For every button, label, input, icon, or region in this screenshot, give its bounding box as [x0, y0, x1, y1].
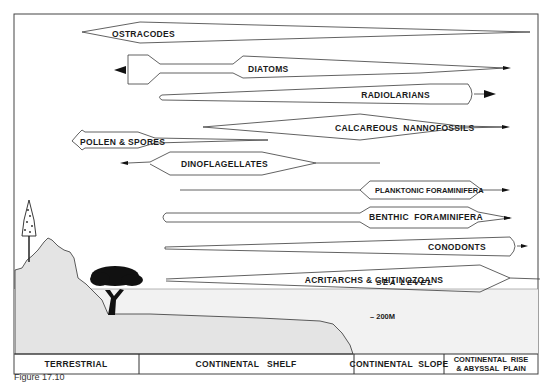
radiolarians-arrowhead: [484, 90, 496, 98]
depth-200m-label: – 200M: [370, 312, 395, 321]
label-benthic-foraminifera: BENTHIC FORAMINIFERA: [369, 212, 483, 222]
label-diatoms: DIATOMS: [248, 64, 289, 74]
zone-bar: TERRESTRIAL CONTINENTAL SHELF CONTINENTA…: [14, 354, 538, 374]
label-radiolarians: RADIOLARIANS: [361, 90, 430, 100]
range-diatoms: [128, 55, 505, 84]
label-ostracodes: OSTRACODES: [112, 29, 175, 39]
zone-continental-shelf: CONTINENTAL SHELF: [196, 359, 297, 369]
label-pollen-spores: POLLEN & SPORES: [80, 137, 165, 147]
zone-continental-rise: CONTINENTAL RISE: [454, 355, 529, 364]
zone-terrestrial: TERRESTRIAL: [45, 359, 108, 369]
label-conodonts: CONODONTS: [428, 242, 486, 252]
diatoms-left-arrowhead: [114, 66, 126, 74]
microfossil-distribution-diagram: TERRESTRIAL CONTINENTAL SHELF CONTINENTA…: [0, 0, 555, 385]
label-dinoflagellates: DINOFLAGELLATES: [181, 159, 268, 169]
label-acritarchs-chitinozoans: ACRITARCHS & CHITINOZOANS: [305, 275, 444, 285]
label-calcareous-nannofossils: CALCAREOUS NANNOFOSSILS: [335, 123, 474, 133]
label-planktonic-foraminifera: PLANKTONIC FORAMINIFERA: [375, 186, 484, 195]
zone-continental-slope: CONTINENTAL SLOPE: [349, 359, 448, 369]
figure-caption: Figure 17.10: [14, 372, 65, 382]
zone-abyssal-plain: & ABYSSAL PLAIN: [456, 364, 526, 373]
conifer-tree-icon: [22, 200, 36, 262]
